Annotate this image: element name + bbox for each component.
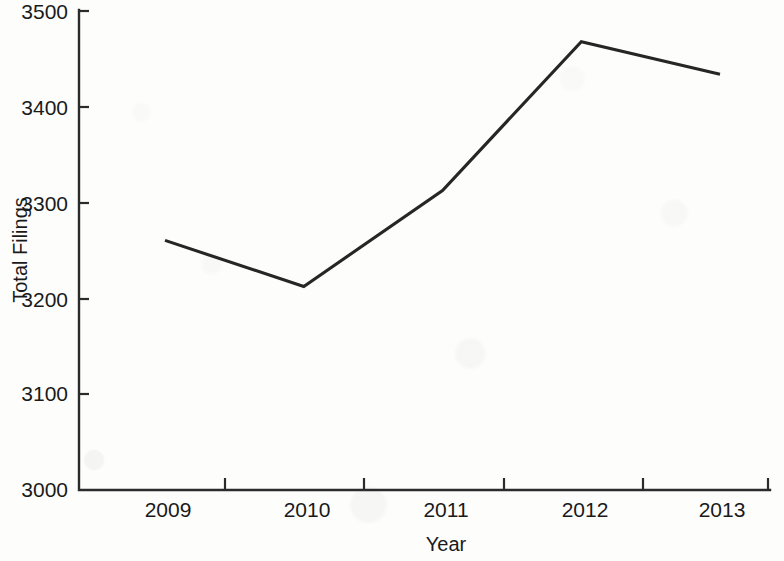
y-axis-tick-label-3100: 3100 (21, 382, 68, 405)
x-axis-tick-label-2012: 2012 (562, 498, 609, 521)
x-axis-tick-label-2011: 2011 (423, 498, 468, 521)
y-axis-title: Total Filings (9, 197, 31, 303)
x-axis-tick-label-2010: 2010 (284, 498, 331, 521)
line-chart: 3500 3400 3300 3200 3100 3000 Total Fili… (0, 0, 784, 561)
y-axis-tick-label-3400: 3400 (21, 96, 68, 119)
y-axis-tick-label-3500: 3500 (21, 0, 68, 23)
x-axis-tick-label-2009: 2009 (145, 498, 192, 521)
chart-canvas: 3500 3400 3300 3200 3100 3000 Total Fili… (0, 0, 784, 561)
y-axis-tick-label-3000: 3000 (21, 478, 68, 501)
x-axis-tick-label-2013: 2013 (699, 498, 746, 521)
axis-lines (79, 10, 770, 490)
x-axis-title: Year (426, 533, 467, 555)
data-series-line-total-filings (165, 42, 720, 287)
